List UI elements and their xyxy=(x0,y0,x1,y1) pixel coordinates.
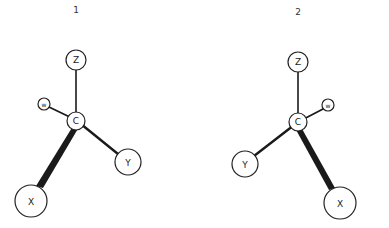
atom-y-2-label: Y xyxy=(241,160,248,170)
atom-x-1-label: X xyxy=(28,197,34,207)
atom-c-1-label: C xyxy=(73,116,79,126)
atom-w-1-label: w xyxy=(42,101,47,108)
molecule-2: 2 Z w C Y X xyxy=(232,7,356,219)
molecule-1-label: 1 xyxy=(73,5,79,15)
bond-c-x-2 xyxy=(295,127,335,190)
atom-x-2-label: X xyxy=(337,199,343,209)
atom-y-1-label: Y xyxy=(124,158,131,168)
atom-z-1-label: Z xyxy=(73,55,79,65)
molecule-1: 1 Z w C Y X xyxy=(15,5,141,217)
bond-c-x-1 xyxy=(36,126,79,188)
atom-w-2-label: w xyxy=(326,102,331,109)
atom-c-2-label: C xyxy=(295,117,301,127)
molecule-2-label: 2 xyxy=(295,7,301,17)
stereo-diagram: 1 Z w C Y X 2 Z w C Y X xyxy=(0,0,389,228)
atom-z-2-label: Z xyxy=(295,57,301,67)
